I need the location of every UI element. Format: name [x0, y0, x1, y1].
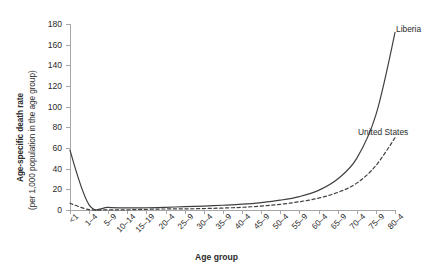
plot-area: [70, 24, 395, 210]
y-tick-label: 20: [52, 184, 62, 194]
x-axis-title: Age group: [0, 252, 433, 262]
y-tick-label: 0: [57, 205, 62, 215]
y-tick-label: 60: [52, 143, 62, 153]
y-tick-label: 140: [48, 60, 62, 70]
y-tick-label: 160: [48, 40, 62, 50]
y-tick-label: 100: [48, 102, 62, 112]
series-line-united-states: [70, 138, 395, 210]
y-axis-title: Age-specific death rate (per 1,000 popul…: [0, 0, 34, 225]
y-tick-label: 120: [48, 81, 62, 91]
y-axis-tick-labels: 020406080100120140160180: [34, 0, 66, 225]
liberia-series-label: Liberia: [396, 24, 421, 34]
y-tick-label: 80: [52, 122, 62, 132]
united-states-series-label: United States: [358, 127, 408, 137]
y-tick-label: 180: [48, 19, 62, 29]
y-axis-title-line-1: Age-specific death rate: [15, 93, 25, 182]
x-axis-tick-labels: <11–45–910–1415–1920–425–930–435–940–445…: [70, 212, 410, 252]
age-specific-death-rate-chart: Age-specific death rate (per 1,000 popul…: [0, 0, 433, 271]
series-line-liberia: [70, 32, 395, 210]
series-lines: [70, 24, 395, 210]
y-tick-label: 40: [52, 164, 62, 174]
